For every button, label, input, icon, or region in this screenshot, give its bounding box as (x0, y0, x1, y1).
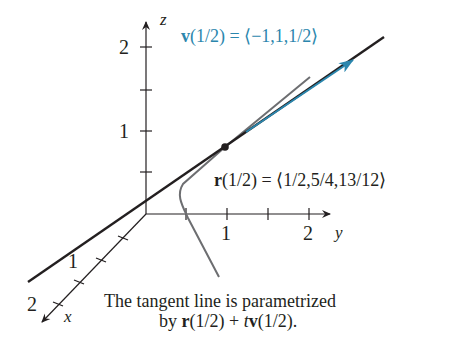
point-label: r(1/2) = ⟨1/2,5/4,13/12⟩ (214, 170, 386, 191)
x-tick-1: 1 (68, 250, 78, 272)
y-axis-label: y (333, 223, 343, 242)
z-tick-1: 1 (119, 120, 129, 142)
y-tick-2: 2 (303, 222, 313, 244)
caption-line-1: The tangent line is parametrized (104, 291, 336, 311)
point-r-half (221, 143, 229, 151)
z-axis-label: z (159, 10, 167, 29)
velocity-vector (246, 60, 353, 132)
x-axis-label: x (63, 307, 72, 326)
x-tick-2: 2 (27, 293, 37, 315)
caption-line-2: by r(1/2) + tv(1/2). (159, 311, 297, 332)
velocity-label: v(1/2) = ⟨−1,1,1/2⟩ (181, 26, 318, 47)
tangent-line (28, 37, 384, 282)
z-axis (140, 22, 152, 214)
y-axis (146, 208, 330, 220)
tangent-line-diagram: z 2 1 1 2 y 1 2 x v(1/2) = ⟨−1,1,1/2⟩ r(… (0, 0, 458, 355)
y-tick-1: 1 (221, 222, 231, 244)
z-tick-2: 2 (119, 36, 129, 58)
